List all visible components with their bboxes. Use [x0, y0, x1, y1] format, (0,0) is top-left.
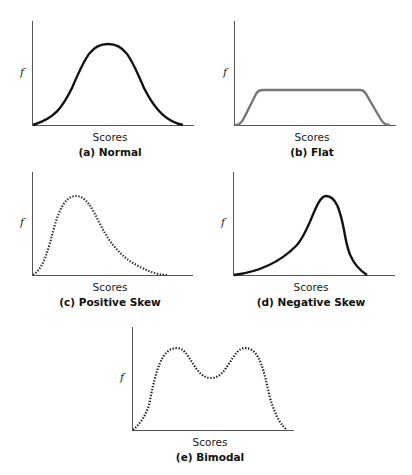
- panel-normal: f Scores (a) Normal: [19, 21, 194, 158]
- distribution-shapes-figure: f Scores (a) Normal f Scores (b) Flat f …: [0, 0, 412, 475]
- panel-positive-skew: f Scores (c) Positive Skew: [19, 172, 193, 308]
- y-axis-label: f: [222, 66, 229, 79]
- x-axis-label: Scores: [93, 131, 128, 143]
- y-axis-label: f: [119, 371, 126, 384]
- panel-flat: f Scores (b) Flat: [222, 21, 396, 158]
- normal-curve: [33, 44, 183, 125]
- panel-caption: (e) Bimodal: [176, 451, 244, 463]
- x-axis-label: Scores: [294, 281, 329, 293]
- panel-caption: (c) Positive Skew: [59, 296, 161, 308]
- y-axis-label: f: [19, 216, 26, 229]
- y-axis-label: f: [220, 216, 227, 229]
- x-axis-label: Scores: [193, 436, 228, 448]
- positive-skew-curve: [33, 196, 168, 275]
- negative-skew-curve: [234, 196, 367, 275]
- x-axis-label: Scores: [93, 281, 128, 293]
- panel-bimodal: f Scores (e) Bimodal: [119, 327, 294, 463]
- flat-curve: [235, 90, 390, 125]
- bimodal-curve: [133, 348, 287, 430]
- panel-caption: (a) Normal: [78, 146, 141, 158]
- panel-caption: (d) Negative Skew: [257, 296, 366, 308]
- x-axis-label: Scores: [295, 131, 330, 143]
- panel-caption: (b) Flat: [290, 146, 334, 158]
- panel-negative-skew: f Scores (d) Negative Skew: [220, 172, 395, 308]
- y-axis-label: f: [19, 66, 26, 79]
